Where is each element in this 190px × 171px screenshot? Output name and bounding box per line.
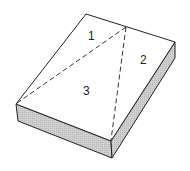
slab-drawing: 1 2 3 bbox=[0, 0, 190, 171]
region-label-1: 1 bbox=[88, 29, 95, 43]
region-label-2: 2 bbox=[140, 53, 147, 67]
slab-diagram: 1 2 3 bbox=[0, 0, 190, 171]
region-label-3: 3 bbox=[83, 84, 90, 98]
